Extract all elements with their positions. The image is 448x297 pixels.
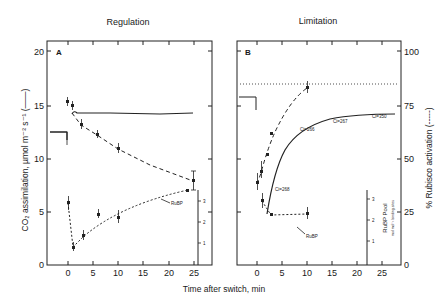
ci-annotation: Ci=266 — [300, 127, 315, 132]
x-tick: 10 — [113, 268, 123, 278]
x-tick: 15 — [138, 268, 148, 278]
assimilation-line-b — [267, 114, 395, 214]
y-axis-label-left: CO₂ assimilation, µmol m⁻² s⁻¹ (——) — [20, 88, 30, 231]
rubisco-activation-a — [72, 113, 193, 181]
x-tick: 15 — [327, 268, 337, 278]
assimilation-line-a-main — [72, 112, 193, 114]
y2-tick: 0 — [404, 260, 409, 270]
y2-tick: 100 — [404, 47, 419, 57]
panel-a-letter: A — [56, 48, 62, 57]
assimilation-line-a — [50, 132, 67, 140]
rubisco-points-b — [256, 86, 309, 184]
inset-tick: 1 — [372, 239, 375, 244]
title-regulation: Regulation — [106, 17, 149, 27]
error-bars-b — [258, 81, 308, 190]
x-tick: 0 — [254, 268, 259, 278]
panel-b: B 100 75 50 25 0 0 5 10 15 20 25 — [237, 41, 419, 278]
inset-tick: 3 — [372, 197, 375, 202]
y-tick: 5 — [39, 207, 44, 217]
y-tick: 15 — [34, 101, 44, 111]
inset-tick: 1 — [203, 241, 206, 246]
error-bars-a — [68, 97, 197, 190]
x-tick: 10 — [302, 268, 312, 278]
rubp-line-a — [68, 190, 188, 247]
ci-annotation: Ci=350 — [372, 114, 387, 119]
rubp-label-b: RuBP — [306, 234, 318, 239]
x-tick: 25 — [377, 268, 387, 278]
x-tick: 25 — [189, 268, 199, 278]
rubp-error-bars-a — [69, 196, 119, 251]
y2-tick: 25 — [404, 207, 414, 217]
y-tick: 10 — [34, 154, 44, 164]
y-axis-label-right: % Rubisco activation (-----) — [424, 107, 434, 208]
y-tick: 20 — [34, 47, 44, 57]
ci-annotation: Ci=268 — [275, 187, 290, 192]
figure: Regulation Limitation CO₂ assimilation, … — [0, 0, 448, 297]
x-axis-label: Time after switch, min — [183, 284, 266, 294]
x-tick: 5 — [90, 268, 95, 278]
x-tick: 5 — [279, 268, 284, 278]
inset-axis-label: RuBP Pool — [382, 203, 388, 232]
y2-tick: 75 — [404, 101, 414, 111]
x-tick: 20 — [352, 268, 362, 278]
rubp-points-a — [67, 189, 189, 249]
x-tick: 20 — [164, 268, 174, 278]
rubisco-points-a — [66, 100, 195, 182]
title-limitation: Limitation — [299, 16, 338, 26]
y2-tick: 50 — [404, 154, 414, 164]
panel-b-letter: B — [245, 48, 251, 57]
inset-tick: 2 — [203, 220, 206, 225]
inset-axis-sublabel: mol mol⁻¹ binding sites — [391, 200, 395, 236]
panel-a: A 20 15 10 5 0 0 5 10 15 20 25 — [34, 41, 212, 278]
inset-tick: 2 — [372, 218, 375, 223]
inset-tick: 3 — [203, 199, 206, 204]
ci-annotation: Ci=267 — [333, 119, 348, 124]
x-tick: 0 — [65, 268, 70, 278]
y-tick: 0 — [39, 260, 44, 270]
rubisco-activation-b — [257, 88, 307, 184]
rubp-label-a: RuBP — [171, 201, 183, 206]
